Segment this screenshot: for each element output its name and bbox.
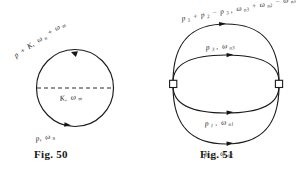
f51-il-p: p [204, 119, 210, 128]
figure-51-caption: Fig. 51 [200, 148, 234, 160]
fig50-mid-omega-sub: m [78, 95, 83, 101]
fig50-top-plus: + [18, 45, 27, 55]
f51-t-w1-sub: n3 [243, 6, 250, 13]
fig51-label-outer-top: p 1 + p 2 − p 3 , ω n3 + ω n2 − ω n3 [180, 0, 297, 25]
f51-t-p3-sub: 3 [226, 9, 230, 15]
svg-text:p, ω n: p, ω n [34, 131, 56, 144]
vertex-square-left [170, 80, 177, 87]
f51-il-comma: , [215, 118, 218, 127]
figure-50-diagram: p + K, ω n + ω m K, ω m p, ω n [0, 0, 151, 172]
inner-lower-arc [173, 86, 279, 113]
f51-t-p2: p [199, 10, 205, 20]
figure-51-diagram: p 1 + p 2 − p 3 , ω n3 + ω n2 − ω n3 [150, 0, 303, 172]
f51-il-w: ω [221, 118, 227, 127]
fig50-top-omega1-sub: n [43, 34, 49, 41]
svg-text:p 1 ,: p 1 , ω n1 [204, 117, 235, 130]
fig50-label-top: p + K, ω n + ω m [11, 19, 67, 62]
f51-t-comma: , [230, 5, 234, 14]
svg-text:p 1 +: p 1 + p 2 − p 3 , ω n3 + ω n2 − ω n3 [180, 0, 297, 25]
f51-t-w3-sub: n3 [290, 0, 297, 5]
fig51-label-inner-upper: p 3 , ω n3 [204, 40, 235, 53]
vertex-square-right [275, 80, 282, 87]
inner-upper-arc [173, 55, 279, 82]
f51-t-p3: p [218, 7, 224, 17]
f51-iu-p-sub: 3 [211, 46, 215, 52]
fig50-top-omega2-sub: m [60, 22, 67, 29]
fig50-bot-p: p, [34, 133, 42, 143]
fig50-label-middle: K, ω m [58, 91, 82, 103]
f51-t-minus2: − [274, 0, 281, 6]
f51-t-minus: − [211, 8, 218, 18]
f51-t-w2-sub: n2 [267, 2, 274, 9]
fig51-label-inner-lower: p 1 , ω n1 [204, 117, 235, 130]
fig50-top-K: K, [24, 40, 36, 52]
svg-text:p + K,: p + K, ω n + ω m [11, 19, 67, 62]
svg-text:K, ω m: K, ω m [58, 91, 82, 103]
outer-bottom-arc [173, 86, 279, 144]
fig50-label-bottom: p, ω n [34, 131, 56, 144]
figure-plate: p + K, ω n + ω m K, ω m p, ω n [0, 0, 303, 172]
fig50-bot-omega: ω [44, 132, 51, 142]
f51-il-w-sub: n1 [228, 121, 234, 127]
fig50-mid-K: K, [58, 93, 67, 103]
f51-iu-w: ω [222, 41, 228, 50]
f51-t-plus2: + [251, 1, 258, 11]
figure-50-caption: Fig. 50 [34, 148, 68, 160]
f51-t-p1-sub: 1 [187, 16, 191, 22]
fig50-mid-omega: ω [70, 92, 76, 102]
fig50-bot-omega-sub: n [52, 135, 56, 141]
f51-t-w3: ω [282, 0, 289, 5]
f51-t-plus: + [192, 11, 199, 21]
f51-t-w1: ω [235, 4, 242, 14]
loop-arrowhead-bottom [64, 122, 72, 128]
svg-text:p 3 ,: p 3 , ω n3 [204, 40, 235, 53]
f51-iu-p: p [204, 43, 210, 52]
f51-iu-comma: , [216, 42, 219, 51]
fig50-top-plus2: + [45, 27, 54, 37]
f51-il-p-sub: 1 [211, 122, 214, 128]
f51-t-p2-sub: 2 [206, 13, 210, 19]
loop-arrowhead-top [71, 50, 79, 58]
outer-top-arc [173, 24, 279, 82]
f51-t-w2: ω [259, 0, 266, 9]
f51-t-p1: p [180, 13, 186, 23]
f51-iu-w-sub: n3 [229, 44, 235, 50]
